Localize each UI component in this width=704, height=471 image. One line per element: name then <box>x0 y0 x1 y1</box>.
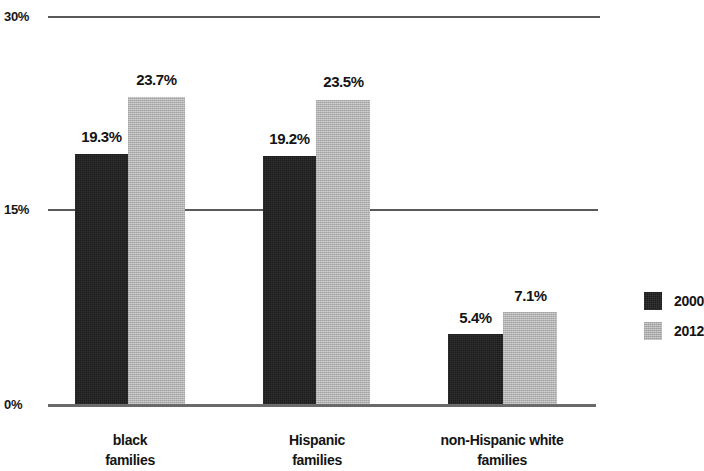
bar-black-families-2000 <box>75 154 128 404</box>
x-axis-label-non-hispanic-white-families-line2: families <box>412 450 592 470</box>
legend-label-2000: 2000 <box>674 293 704 309</box>
x-axis-label-black-families-line2: families <box>50 450 210 470</box>
x-axis-label-non-hispanic-white-families: non-Hispanic white families <box>412 430 592 470</box>
bar-non-hispanic-white-families-2000 <box>448 334 503 404</box>
x-axis-label-hispanic-families-line1: Hispanic <box>237 430 397 450</box>
y-axis-tick-15: 15% <box>4 203 29 216</box>
y-axis-tick-0: 0% <box>4 398 22 411</box>
gridline-30 <box>48 16 600 18</box>
legend-swatch-2012-icon <box>644 322 662 340</box>
legend-label-2012: 2012 <box>674 323 704 339</box>
bar-chart: 30% 15% 0% 19.3% 23.7% 19.2% 23.5% 5.4% … <box>0 0 704 471</box>
bar-value-black-families-2012: 23.7% <box>118 72 195 87</box>
bar-value-non-hispanic-white-families-2012: 7.1% <box>492 288 569 303</box>
x-axis-label-black-families-line1: black <box>50 430 210 450</box>
bar-value-hispanic-families-2012: 23.5% <box>305 74 382 89</box>
gridline-axis-baseline <box>48 404 596 407</box>
bar-non-hispanic-white-families-2012 <box>503 312 557 404</box>
bar-hispanic-families-2012 <box>316 100 370 404</box>
bar-black-families-2012 <box>128 97 185 404</box>
legend-item-2000: 2000 <box>644 292 704 322</box>
x-axis-label-non-hispanic-white-families-line1: non-Hispanic white <box>412 430 592 450</box>
x-axis-label-black-families: black families <box>50 430 210 470</box>
x-axis-label-hispanic-families-line2: families <box>237 450 397 470</box>
legend-swatch-2000-icon <box>644 292 662 310</box>
bar-hispanic-families-2000 <box>263 156 316 404</box>
y-axis-tick-30: 30% <box>4 10 29 23</box>
chart-legend: 2000 2012 <box>644 292 704 352</box>
x-axis-label-hispanic-families: Hispanic families <box>237 430 397 470</box>
legend-item-2012: 2012 <box>644 322 704 352</box>
